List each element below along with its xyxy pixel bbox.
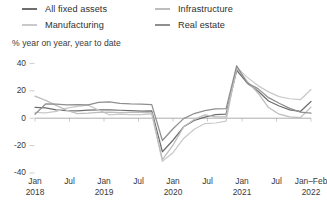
x-tick-label-line2: 2021 — [233, 187, 252, 198]
x-tick-label-line2: 2019 — [95, 187, 114, 198]
y-tick-label: 0 — [2, 113, 26, 123]
y-tick-label: 40 — [2, 58, 26, 68]
y-tick-label: -40 — [2, 167, 26, 177]
x-tick-label-line1: Jan — [28, 176, 42, 186]
x-tick-label: Jul — [64, 176, 75, 187]
y-tick-label: -20 — [2, 140, 26, 150]
x-tick-label-line2: 2022 — [295, 187, 327, 198]
series-line-real-estate — [35, 66, 311, 141]
x-tick-label-line2: 2018 — [26, 187, 45, 198]
x-tick-label: Jul — [202, 176, 213, 187]
x-tick-label: Jan–Feb2022 — [295, 176, 327, 197]
y-tick-label: 20 — [2, 85, 26, 95]
x-tick-label: Jan2019 — [95, 176, 114, 197]
data-series-group — [35, 66, 311, 162]
x-tick-label: Jan2021 — [233, 176, 252, 197]
x-tick-label-line1: Jul — [64, 176, 75, 186]
x-tick-label-line1: Jan — [97, 176, 111, 186]
x-tick-label: Jan2018 — [26, 176, 45, 197]
series-line-infrastructure — [35, 68, 311, 160]
x-tick-label-line1: Jan–Feb — [295, 176, 327, 186]
x-tick-label: Jul — [133, 176, 144, 187]
x-tick-label: Jan2020 — [164, 176, 183, 197]
x-tick-label-line1: Jul — [271, 176, 282, 186]
x-tick-label: Jul — [271, 176, 282, 187]
x-tick-label-line1: Jul — [202, 176, 213, 186]
x-tick-marks — [35, 118, 311, 121]
series-line-manufacturing — [35, 67, 311, 161]
series-line-all-fixed-assets — [35, 70, 311, 152]
x-tick-label-line1: Jan — [166, 176, 180, 186]
y-tick-marks — [30, 63, 35, 173]
x-tick-label-line1: Jan — [235, 176, 249, 186]
x-tick-label-line1: Jul — [133, 176, 144, 186]
x-tick-label-line2: 2020 — [164, 187, 183, 198]
